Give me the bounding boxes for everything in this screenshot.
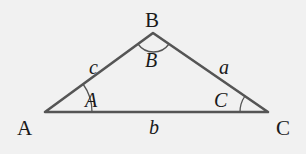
side-label-a: a	[219, 56, 229, 78]
angle-label-c: C	[214, 89, 228, 111]
side-label-c: c	[89, 56, 98, 78]
angle-label-a: A	[83, 89, 98, 111]
triangle-diagram: A B C c a b A B C	[0, 0, 306, 154]
vertex-label-a: A	[17, 116, 33, 140]
triangle-abc	[45, 33, 268, 112]
vertex-label-c: C	[276, 116, 290, 140]
vertex-label-b: B	[145, 8, 159, 32]
angle-arc-c	[240, 96, 245, 112]
angle-label-b: B	[145, 49, 157, 71]
side-label-b: b	[149, 116, 159, 138]
